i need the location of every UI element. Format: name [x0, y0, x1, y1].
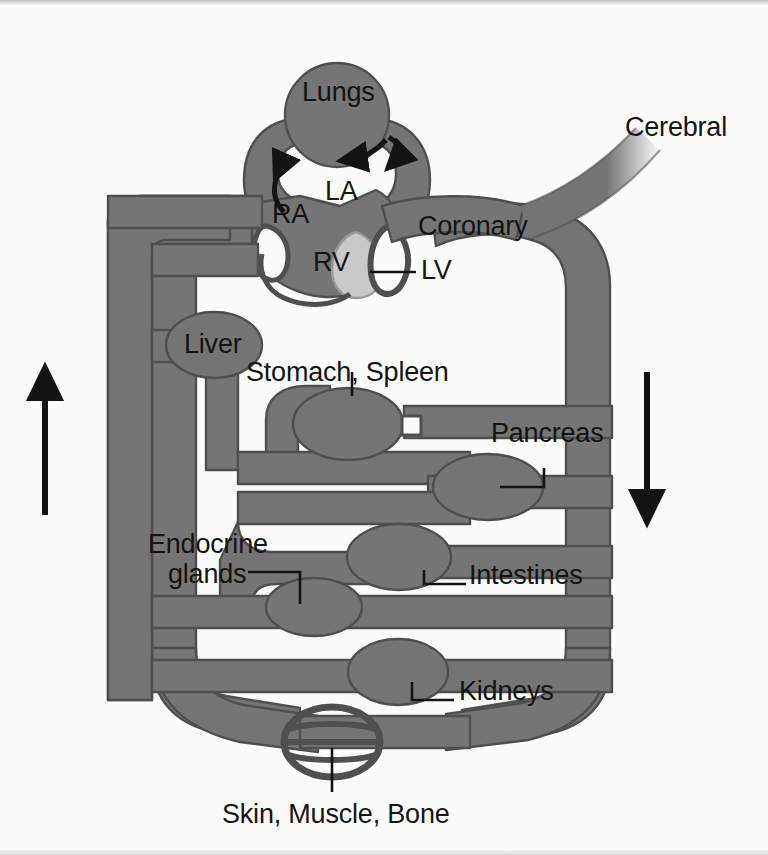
kidneys-organ [348, 639, 448, 705]
intestines-organ [347, 524, 451, 590]
circulation-diagram-canvas: Lungs Cerebral LA RA RV LV Coronary Live… [0, 0, 768, 855]
endocrine-glands-organ [266, 578, 362, 636]
label-lungs: Lungs [302, 78, 375, 107]
label-coronary: Coronary [418, 212, 527, 241]
stomach-spleen-organ [293, 388, 403, 460]
label-la: LA [325, 177, 358, 206]
label-liver: Liver [184, 330, 242, 359]
label-stomach-spleen: Stomach, Spleen [246, 358, 449, 387]
label-rv: RV [313, 248, 350, 277]
label-intestines: Intestines [469, 561, 583, 590]
label-lv: LV [421, 256, 452, 285]
label-cerebral: Cerebral [625, 113, 727, 142]
label-endocrine-line1: Endocrine [148, 530, 268, 559]
label-kidneys: Kidneys [459, 677, 554, 706]
superior-vena-cava [108, 196, 262, 228]
valve-marker [402, 416, 421, 435]
label-ra: RA [272, 200, 309, 229]
endocrine-channel [152, 596, 612, 628]
inferior-vena-cava-stub [152, 244, 258, 276]
label-endocrine-line2: glands [168, 560, 246, 589]
label-skin-muscle-bone: Skin, Muscle, Bone [222, 800, 450, 829]
label-pancreas: Pancreas [491, 419, 603, 448]
cerebral-artery [520, 128, 660, 238]
